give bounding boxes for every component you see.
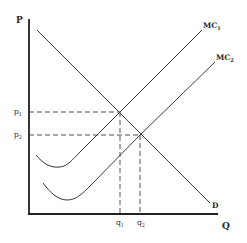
mc2-label: MC2 [216, 53, 234, 63]
q2-label: q2 [137, 218, 145, 228]
reference-lines [29, 112, 140, 214]
q1-label: q1 [116, 218, 124, 228]
y-axis-label: P [16, 15, 23, 25]
mc2-curve [43, 62, 215, 200]
mc1-label: MC1 [203, 21, 221, 31]
x-axis-label: Q [222, 221, 230, 231]
p2-label: p2 [14, 130, 22, 140]
demand-label: D [212, 201, 219, 210]
p1-label: p1 [14, 107, 22, 117]
marginal-cost-demand-diagram: P Q D MC1 MC2 p1 p2 q1 q2 [0, 0, 247, 243]
demand-curve [37, 30, 210, 203]
